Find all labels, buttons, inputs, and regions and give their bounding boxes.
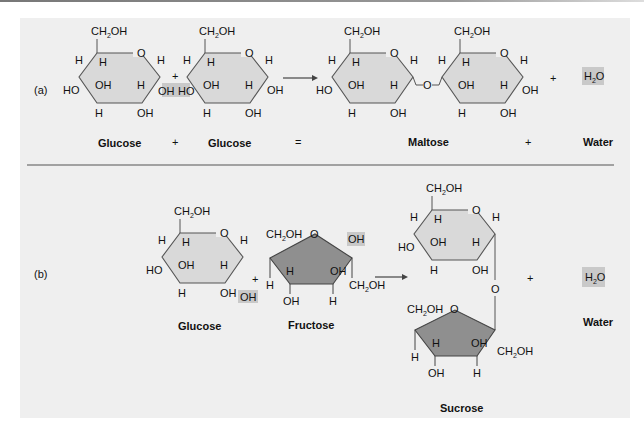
name-glucose-a1: Glucose [98, 137, 141, 149]
svg-text:H: H [390, 79, 398, 91]
svg-text:OH: OH [137, 107, 154, 119]
panel-b-label: (b) [34, 268, 47, 280]
svg-text:OH: OH [245, 107, 262, 119]
svg-text:CH2OH: CH2OH [174, 205, 210, 219]
svg-text:H: H [95, 107, 103, 119]
glucose-molecule-b: O CH2OH H H H HO OH H H OH [146, 205, 248, 299]
svg-text:H: H [203, 107, 211, 119]
svg-text:HO: HO [178, 85, 195, 97]
name-glucose-a2: Glucose [208, 137, 251, 149]
svg-text:H: H [240, 234, 248, 246]
svg-text:O: O [450, 303, 459, 315]
svg-text:H: H [500, 79, 508, 91]
svg-text:H: H [99, 56, 107, 68]
svg-text:CH2OH: CH2OH [344, 25, 380, 39]
svg-text:H: H [137, 79, 145, 91]
svg-text:H: H [245, 79, 253, 91]
svg-text:H: H [220, 259, 228, 271]
svg-text:HO: HO [316, 84, 333, 96]
name-glucose-b: Glucose [178, 320, 221, 332]
svg-text:+: + [550, 72, 556, 84]
name-maltose: Maltose [408, 136, 449, 148]
svg-text:O: O [220, 227, 229, 239]
svg-text:H: H [352, 56, 360, 68]
svg-text:OH: OH [203, 79, 220, 91]
svg-text:H: H [265, 54, 273, 66]
svg-text:OH: OH [283, 295, 300, 307]
svg-text:OH: OH [472, 264, 489, 276]
svg-text:OH: OH [220, 287, 237, 299]
svg-text:OH: OH [471, 337, 488, 349]
svg-text:+: + [252, 273, 258, 285]
svg-text:OH: OH [348, 79, 365, 91]
name-fructose: Fructose [288, 319, 334, 331]
svg-text:OH: OH [95, 79, 112, 91]
svg-text:H: H [178, 287, 186, 299]
svg-text:H: H [286, 265, 294, 277]
name-water-b: Water [583, 316, 614, 328]
svg-text:OH: OH [428, 367, 445, 379]
svg-text:OH: OH [240, 291, 257, 303]
svg-text:CH2OH: CH2OH [407, 303, 443, 317]
svg-text:H: H [329, 295, 337, 307]
svg-text:O: O [423, 79, 432, 91]
svg-text:+: + [527, 272, 533, 284]
glucose-molecule-a2: O CH2OH H H H OH H OH H OH [183, 25, 284, 119]
svg-text:H: H [492, 211, 500, 223]
svg-text:H: H [462, 56, 470, 68]
svg-text:H: H [411, 351, 419, 363]
svg-text:O: O [390, 47, 399, 59]
svg-text:OH: OH [390, 107, 407, 119]
svg-text:OH: OH [430, 236, 447, 248]
svg-text:CH2OH: CH2OH [426, 182, 462, 196]
svg-text:OH: OH [348, 233, 365, 245]
svg-text:O: O [245, 47, 254, 59]
svg-text:O: O [472, 204, 481, 216]
svg-text:H: H [183, 54, 191, 66]
svg-text:O: O [310, 228, 319, 240]
svg-text:H: H [328, 54, 336, 66]
svg-text:H: H [434, 213, 442, 225]
svg-text:OH: OH [522, 84, 539, 96]
svg-text:H: H [430, 264, 438, 276]
svg-text:CH2OH: CH2OH [497, 345, 533, 359]
svg-text:OH: OH [500, 107, 517, 119]
svg-text:H: H [75, 54, 83, 66]
svg-text:CH2OH: CH2OH [91, 25, 127, 39]
svg-text:OH: OH [267, 84, 284, 96]
svg-text:+: + [172, 136, 178, 148]
sucrose-molecule: O CH2OH H H H HO OH H H OH O CH2OH O H C… [398, 182, 533, 379]
svg-text:OH: OH [458, 79, 475, 91]
disaccharide-diagram: (a) O CH2OH H H H HO OH H H OH OH + HO O… [0, 0, 644, 429]
panel-a-label: (a) [34, 84, 47, 96]
svg-text:H: H [432, 337, 440, 349]
glucose-molecule-a1: O CH2OH H H H HO OH H H OH [63, 25, 165, 119]
svg-text:CH2OH: CH2OH [199, 25, 235, 39]
svg-text:H: H [458, 107, 466, 119]
svg-text:O: O [500, 47, 509, 59]
svg-text:H: H [438, 54, 446, 66]
svg-text:CH2OH: CH2OH [454, 25, 490, 39]
svg-text:H: H [158, 234, 166, 246]
svg-text:O: O [491, 283, 500, 295]
svg-text:H: H [348, 107, 356, 119]
svg-text:OH: OH [158, 85, 175, 97]
maltose-molecule: O CH2OH H H H HO OH H H OH O O CH2OH H H… [316, 25, 539, 119]
svg-text:H: H [520, 54, 528, 66]
svg-text:HO: HO [146, 264, 163, 276]
svg-text:OH: OH [330, 265, 347, 277]
svg-text:CH2OH: CH2OH [266, 228, 302, 242]
svg-text:H: H [182, 236, 190, 248]
svg-text:=: = [295, 136, 301, 148]
svg-text:H: H [266, 279, 274, 291]
name-sucrose: Sucrose [440, 402, 483, 414]
svg-text:+: + [172, 70, 178, 82]
svg-text:H: H [473, 367, 481, 379]
svg-text:H: H [410, 211, 418, 223]
svg-text:H: H [410, 54, 418, 66]
svg-text:+: + [525, 136, 531, 148]
svg-text:O: O [137, 47, 146, 59]
svg-text:H: H [472, 236, 480, 248]
svg-text:CH2OH: CH2OH [349, 279, 385, 293]
svg-text:HO: HO [398, 241, 415, 253]
